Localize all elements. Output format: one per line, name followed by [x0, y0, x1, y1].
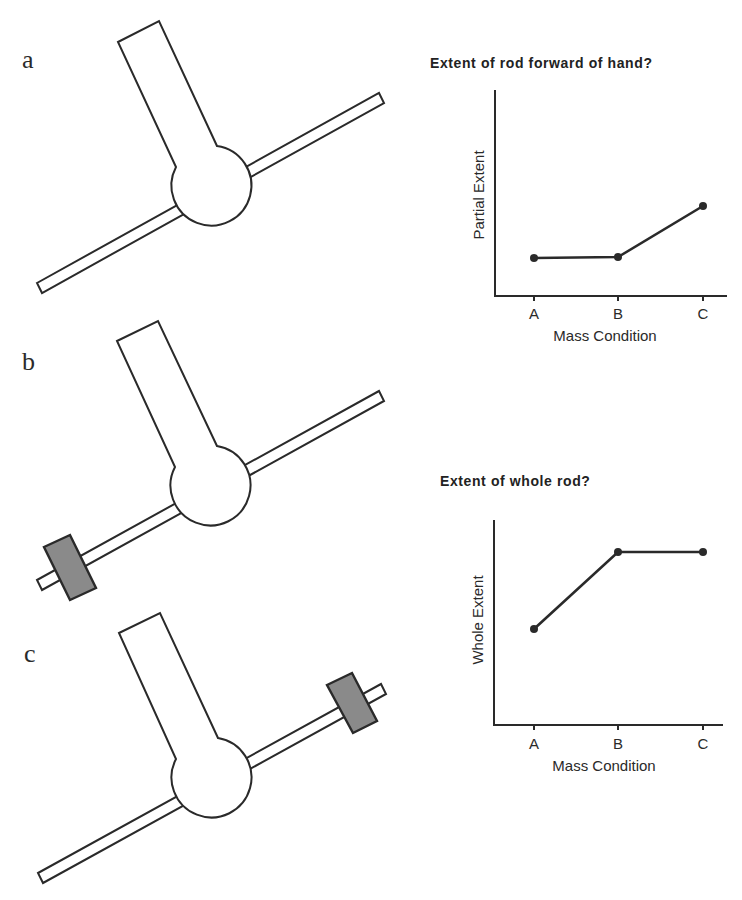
data-point	[614, 548, 622, 556]
data-point	[530, 625, 538, 633]
data-point	[699, 548, 707, 556]
hand-arm	[117, 321, 250, 525]
panel-a-label: a	[22, 45, 34, 74]
hand-rod-a-icon	[37, 21, 384, 293]
chart-2-title: Extent of whole rod?	[440, 473, 590, 489]
x-axis-label: Mass Condition	[552, 757, 655, 774]
y-axis-label: Whole Extent	[469, 575, 486, 665]
data-point	[614, 253, 622, 261]
x-tick-label: B	[613, 735, 623, 752]
hand-arm	[118, 21, 251, 226]
x-tick-label: C	[698, 735, 709, 752]
panel-b: b	[22, 321, 384, 600]
x-axis-label: Mass Condition	[553, 327, 656, 344]
panel-b-label: b	[22, 347, 35, 376]
weight-block	[44, 535, 96, 600]
x-tick-label: A	[529, 735, 539, 752]
y-axis-label: Partial Extent	[470, 150, 487, 240]
panel-a: a	[22, 21, 384, 293]
hand-rod-b-icon	[37, 321, 384, 600]
x-tick-label: B	[613, 305, 623, 322]
chart-1-title: Extent of rod forward of hand?	[430, 55, 653, 71]
panel-c: c	[24, 613, 386, 883]
hand-arm	[119, 613, 251, 817]
chart-partial-extent: Extent of rod forward of hand? A B C Mas…	[430, 55, 727, 344]
data-point	[530, 254, 538, 262]
figure-canvas: a b c Extent of rod forward of hand?	[0, 0, 742, 900]
x-tick-label: C	[698, 305, 709, 322]
data-line	[534, 206, 703, 258]
panel-c-label: c	[24, 639, 36, 668]
chart-whole-extent: Extent of whole rod? A B C Mass Conditio…	[440, 473, 723, 774]
data-line	[534, 552, 703, 629]
x-tick-label: A	[529, 305, 539, 322]
hand-rod-c-icon	[38, 613, 386, 883]
data-point	[699, 202, 707, 210]
